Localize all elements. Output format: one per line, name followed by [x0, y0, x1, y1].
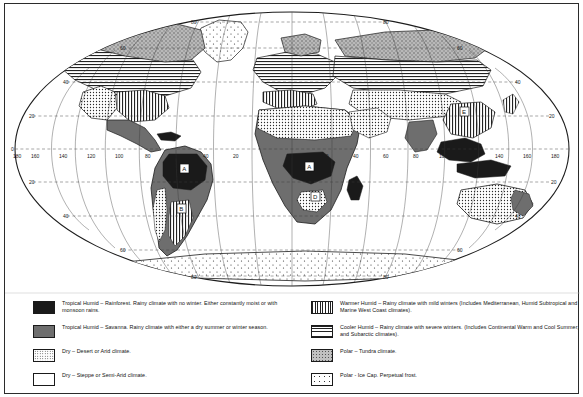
svg-text:20: 20 — [323, 153, 329, 159]
legend-item-polar-tundra: Polar – Tundra climate. — [311, 348, 579, 366]
legend-label-tropical-savanna: Tropical Humid – Savanna. Rainy climate … — [62, 324, 268, 331]
svg-text:B: B — [179, 206, 183, 212]
svg-text:120: 120 — [87, 153, 96, 159]
legend-item-tropical-humid-rainforest: Tropical Humid – Rainforest. Rainy clima… — [33, 300, 301, 318]
svg-text:60: 60 — [173, 153, 179, 159]
marker-africa: A — [305, 162, 314, 171]
svg-text:40: 40 — [515, 213, 521, 219]
svg-text:20: 20 — [29, 179, 35, 185]
svg-text:40: 40 — [63, 213, 69, 219]
marker-argentina: B — [177, 204, 186, 213]
svg-text:120: 120 — [467, 153, 476, 159]
svg-text:40: 40 — [353, 153, 359, 159]
svg-text:40: 40 — [63, 79, 69, 85]
svg-text:80: 80 — [191, 274, 197, 280]
svg-text:20: 20 — [549, 113, 555, 119]
svg-text:A: A — [182, 166, 186, 172]
svg-text:100: 100 — [115, 153, 124, 159]
legend-item-warmer-humid: Warmer Humid – Rainy climate with mild w… — [311, 300, 579, 318]
svg-text:40: 40 — [515, 79, 521, 85]
legend: Tropical Humid – Rainforest. Rainy clima… — [19, 300, 571, 388]
marker-africa-steppe: D — [311, 192, 320, 201]
legend-item-dry-steppe-semiarid: Dry – Steppe or Semi-Arid climate. — [33, 372, 301, 390]
marker-amazon: A — [180, 164, 189, 173]
svg-text:100: 100 — [439, 153, 448, 159]
svg-text:40: 40 — [203, 153, 209, 159]
new-zealand — [543, 212, 557, 232]
legend-swatch-polar-tundra — [311, 349, 333, 362]
svg-text:60: 60 — [457, 45, 463, 51]
legend-swatch-warmer-humid — [311, 301, 333, 314]
svg-text:180: 180 — [551, 153, 560, 159]
svg-text:20: 20 — [233, 153, 239, 159]
svg-text:60: 60 — [383, 153, 389, 159]
legend-label-dry-steppe-semiarid: Dry – Steppe or Semi-Arid climate. — [62, 372, 147, 379]
legend-label-dry-desert-arid: Dry – Desert or Arid climate. — [62, 348, 131, 355]
legend-label-cooler-humid: Cooler Humid – Rainy climate with severe… — [340, 324, 579, 338]
svg-text:180: 180 — [13, 153, 22, 159]
legend-swatch-polar-ice-cap — [311, 373, 333, 386]
svg-text:80: 80 — [413, 153, 419, 159]
legend-swatch-dry-desert-arid — [33, 349, 55, 362]
svg-text:140: 140 — [59, 153, 68, 159]
svg-text:D: D — [313, 194, 318, 200]
svg-text:60: 60 — [120, 45, 126, 51]
legend-label-tropical-humid-rainforest: Tropical Humid – Rainforest. Rainy clima… — [62, 300, 301, 314]
legend-swatch-cooler-humid — [311, 325, 333, 338]
legend-column-right: Warmer Humid – Rainy climate with mild w… — [311, 300, 579, 396]
climate-map-page: 80 60 40 20 0 20 40 60 80 80 60 40 20 20… — [0, 0, 583, 397]
map-frame: 80 60 40 20 0 20 40 60 80 80 60 40 20 20… — [4, 3, 579, 394]
legend-item-polar-ice-cap: Polar - Ice Cap. Perpetual frost. — [311, 372, 579, 390]
svg-text:E: E — [462, 109, 466, 115]
svg-text:60: 60 — [120, 247, 126, 253]
legend-swatch-tropical-savanna — [33, 325, 55, 338]
svg-text:160: 160 — [31, 153, 40, 159]
legend-swatch-tropical-humid-rainforest — [33, 301, 55, 314]
svg-text:80: 80 — [145, 153, 151, 159]
legend-column-left: Tropical Humid – Rainforest. Rainy clima… — [33, 300, 301, 396]
marker-asia: E — [460, 107, 469, 116]
legend-item-cooler-humid: Cooler Humid – Rainy climate with severe… — [311, 324, 579, 342]
legend-label-polar-tundra: Polar – Tundra climate. — [340, 348, 397, 355]
svg-text:80: 80 — [191, 19, 197, 25]
svg-text:80: 80 — [383, 19, 389, 25]
legend-label-warmer-humid: Warmer Humid – Rainy climate with mild w… — [340, 300, 579, 314]
siberia-cooler-humid — [333, 56, 491, 94]
sahara-desert — [257, 106, 357, 140]
legend-item-tropical-savanna: Tropical Humid – Savanna. Rainy climate … — [33, 324, 301, 342]
svg-text:60: 60 — [457, 247, 463, 253]
svg-text:20: 20 — [551, 179, 557, 185]
legend-label-polar-ice-cap: Polar - Ice Cap. Perpetual frost. — [340, 372, 417, 379]
svg-text:0: 0 — [289, 153, 292, 159]
svg-text:A: A — [307, 164, 311, 170]
svg-text:160: 160 — [523, 153, 532, 159]
legend-item-dry-desert-arid: Dry – Desert or Arid climate. — [33, 348, 301, 366]
legend-swatch-dry-steppe-semiarid — [33, 373, 55, 386]
svg-text:80: 80 — [383, 274, 389, 280]
svg-text:0: 0 — [11, 146, 14, 152]
svg-text:20: 20 — [29, 113, 35, 119]
svg-text:140: 140 — [495, 153, 504, 159]
